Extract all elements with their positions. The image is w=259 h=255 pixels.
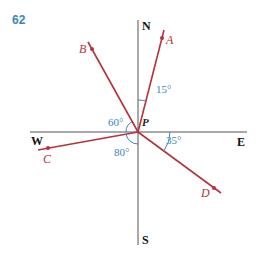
angle-label-60: 60° — [108, 116, 123, 128]
compass-diagram: N S E W P A B C D 15° 60° 80° 35° — [0, 0, 259, 255]
angle-label-35: 35° — [166, 134, 181, 146]
point-c — [46, 146, 50, 150]
label-south: S — [142, 233, 149, 247]
angle-arc-b — [126, 122, 132, 132]
label-p: P — [142, 116, 149, 128]
angle-arc-c — [126, 134, 138, 144]
label-a: A — [165, 33, 174, 47]
label-b: B — [79, 42, 87, 56]
angle-label-80: 80° — [114, 146, 129, 158]
angle-arc-a — [138, 100, 146, 101]
label-east: E — [237, 135, 245, 149]
label-west: W — [31, 134, 43, 148]
angle-label-15: 15° — [156, 83, 171, 95]
label-c: C — [43, 152, 52, 166]
label-north: N — [142, 19, 151, 33]
point-a — [160, 36, 164, 40]
point-d — [212, 186, 216, 190]
point-b — [90, 47, 94, 51]
label-d: D — [200, 186, 210, 200]
